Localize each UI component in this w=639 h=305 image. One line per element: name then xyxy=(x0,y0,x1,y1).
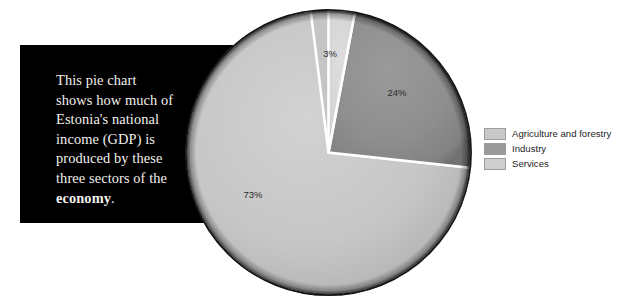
caption-text-tail: . xyxy=(111,190,115,206)
legend-label-industry: Industry xyxy=(512,143,546,155)
legend-item-services: Services xyxy=(484,157,611,171)
legend: Agriculture and forestry Industry Servic… xyxy=(484,127,611,172)
pie-graphic: 3% 24% 73% xyxy=(185,9,472,296)
caption-text-main: This pie chart shows how much of Estonia… xyxy=(56,72,173,186)
legend-label-services: Services xyxy=(512,158,549,170)
slice-label-services: 73% xyxy=(243,189,263,200)
caption-text-emphasis: economy xyxy=(56,190,111,206)
legend-swatch-services xyxy=(484,158,506,170)
legend-item-industry: Industry xyxy=(484,142,611,156)
slice-label-industry: 24% xyxy=(387,87,407,98)
pie-chart-figure: This pie chart shows how much of Estonia… xyxy=(0,0,639,305)
legend-swatch-industry xyxy=(484,143,506,155)
legend-label-agriculture: Agriculture and forestry xyxy=(512,128,611,140)
pie-svg: 3% 24% 73% xyxy=(185,9,472,296)
legend-item-agriculture: Agriculture and forestry xyxy=(484,127,611,141)
slice-label-agriculture: 3% xyxy=(323,48,337,59)
legend-swatch-agriculture xyxy=(484,128,506,140)
